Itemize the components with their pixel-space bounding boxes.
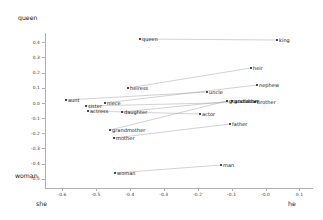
data-point-label: heiress <box>130 85 148 91</box>
x-tick-label: -0.0 <box>254 192 278 197</box>
data-point-label: brother <box>257 99 276 105</box>
data-point-label: queen <box>142 36 158 42</box>
y-tick-mark <box>42 148 45 149</box>
x-tick-mark <box>232 188 233 191</box>
data-point <box>113 137 115 139</box>
x-axis-left-label: she <box>36 200 47 207</box>
data-point-label: actress <box>90 108 108 114</box>
y-tick-label: 0.2 <box>0 70 40 75</box>
y-tick-label: -0.3 <box>0 146 40 151</box>
y-tick-mark <box>42 118 45 119</box>
data-point-label: man <box>223 162 234 168</box>
analogy-connector-lines <box>0 0 323 220</box>
data-point-label: king <box>279 37 290 43</box>
data-point-label: uncle <box>209 89 223 95</box>
y-axis-bottom-label: woman <box>15 172 38 179</box>
x-tick-label: -0.3 <box>152 192 176 197</box>
data-point <box>139 38 141 40</box>
y-tick-mark <box>42 179 45 180</box>
y-tick-mark <box>42 88 45 89</box>
x-tick-label: -0.1 <box>220 192 244 197</box>
data-point <box>85 105 87 107</box>
data-point-label: niece <box>107 100 121 106</box>
y-tick-mark <box>42 57 45 58</box>
x-tick-mark <box>96 188 97 191</box>
data-point <box>114 172 116 174</box>
y-axis-top-label: queen <box>18 14 37 21</box>
y-tick-mark <box>42 164 45 165</box>
analogy-line <box>140 39 277 40</box>
y-tick-mark <box>42 42 45 43</box>
y-tick-label: -0.2 <box>0 131 40 136</box>
scatter-plot-figure: 0.40.30.20.10.0-0.1-0.2-0.3-0.4-0.5 -0.6… <box>0 0 323 220</box>
data-point <box>229 123 231 125</box>
data-point <box>87 110 89 112</box>
data-point <box>254 101 256 103</box>
x-tick-mark <box>62 188 63 191</box>
x-axis-right-label: he <box>288 200 296 207</box>
x-tick-mark <box>299 188 300 191</box>
data-point <box>220 164 222 166</box>
y-axis-line <box>45 33 46 188</box>
x-tick-mark <box>164 188 165 191</box>
data-point-label: mother <box>116 135 135 141</box>
data-point <box>127 87 129 89</box>
y-tick-mark <box>42 73 45 74</box>
data-point <box>65 99 67 101</box>
y-tick-mark <box>42 133 45 134</box>
x-tick-mark <box>266 188 267 191</box>
y-tick-mark <box>42 103 45 104</box>
data-point-label: father <box>232 121 247 127</box>
y-tick-label: 0.1 <box>0 85 40 90</box>
data-point <box>199 113 201 115</box>
data-point <box>104 102 106 104</box>
data-point-label: woman <box>117 170 136 176</box>
x-tick-label: -0.4 <box>118 192 142 197</box>
x-tick-label: -0.2 <box>186 192 210 197</box>
data-point-label: nephew <box>259 82 279 88</box>
data-point-label: actor <box>202 111 215 117</box>
data-point-label: daughter <box>124 109 147 115</box>
analogy-line <box>66 92 207 100</box>
data-point-label: heir <box>253 65 263 71</box>
y-tick-label: -0.4 <box>0 161 40 166</box>
x-tick-mark <box>130 188 131 191</box>
y-tick-label: 0.3 <box>0 55 40 60</box>
x-tick-label: 0.1 <box>287 192 311 197</box>
data-point <box>256 84 258 86</box>
data-point <box>206 91 208 93</box>
data-point <box>276 39 278 41</box>
x-axis-line <box>45 188 313 189</box>
y-tick-label: 0.0 <box>0 101 40 106</box>
data-point <box>121 111 123 113</box>
x-tick-mark <box>198 188 199 191</box>
data-point <box>231 100 233 102</box>
data-point <box>109 129 111 131</box>
data-point <box>250 67 252 69</box>
y-tick-label: 0.4 <box>0 40 40 45</box>
data-point <box>226 100 228 102</box>
data-point-label: grandmother <box>112 127 145 133</box>
x-tick-label: -0.6 <box>50 192 74 197</box>
x-tick-label: -0.5 <box>84 192 108 197</box>
data-point-label: aunt <box>68 97 80 103</box>
y-tick-label: -0.1 <box>0 116 40 121</box>
